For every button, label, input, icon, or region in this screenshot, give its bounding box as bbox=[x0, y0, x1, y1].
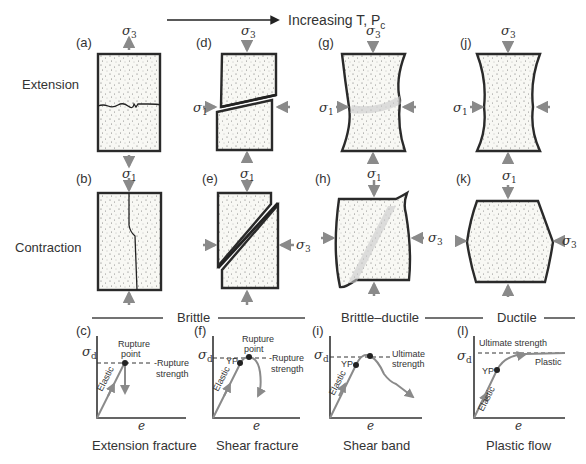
specimen-e: σ1 σ3 bbox=[203, 166, 311, 305]
panel-label-i: (i) bbox=[312, 323, 324, 338]
panel-label-c: (c) bbox=[76, 323, 91, 338]
caption-shear-band: Shear band bbox=[343, 438, 410, 453]
panel-label-l: (l) bbox=[457, 323, 469, 338]
elastic-label: Elastic bbox=[476, 384, 497, 413]
panel-label-k: (k) bbox=[456, 171, 471, 186]
x-axis-label: e bbox=[253, 419, 260, 433]
sigma3-label: σ3 bbox=[122, 23, 137, 40]
panel-label-e: (e) bbox=[202, 171, 218, 186]
sigma1-label: σ1 bbox=[502, 168, 517, 185]
panel-label-f: (f) bbox=[194, 323, 206, 338]
ultimate-strength-label: Ultimate strength bbox=[479, 338, 547, 348]
panel-label-b: (b) bbox=[76, 171, 92, 186]
sigma3-label: σ3 bbox=[562, 233, 577, 250]
sigma1-label: σ1 bbox=[319, 100, 334, 117]
sigma3-label: σ3 bbox=[296, 237, 311, 254]
svg-text:point: point bbox=[244, 344, 264, 354]
regime-bar: Brittle Brittle–ductile Ductile bbox=[92, 310, 575, 325]
elastic-label: Elastic bbox=[95, 364, 116, 393]
rupture-point-label: Rupture bbox=[242, 334, 274, 344]
row-label-extension: Extension bbox=[22, 77, 79, 92]
rupture-point bbox=[122, 360, 128, 366]
yield-point bbox=[494, 367, 500, 373]
ultimate-point bbox=[367, 353, 373, 359]
caption-extension-fracture: Extension fracture bbox=[92, 438, 197, 453]
sigma1-label: σ1 bbox=[122, 166, 137, 183]
graph-l: (l) σd Ultimate strength Plastic YP Elas… bbox=[457, 323, 565, 453]
row-label-contraction: Contraction bbox=[15, 240, 81, 255]
sigma1-label: σ1 bbox=[193, 100, 208, 117]
yp-label: YP bbox=[482, 366, 494, 376]
caption-shear-fracture: Shear fracture bbox=[216, 438, 298, 453]
x-axis-label: e bbox=[367, 419, 374, 433]
yp-label: YP bbox=[226, 356, 238, 366]
regime-brittle-ductile: Brittle–ductile bbox=[341, 310, 419, 325]
plastic-label: Plastic bbox=[535, 357, 562, 367]
regime-ductile: Ductile bbox=[497, 310, 537, 325]
graph-i: (i) σd YP Ultimate strength Elastic e Sh… bbox=[312, 323, 425, 453]
sigma3-label: σ3 bbox=[501, 23, 516, 40]
sigma-d-label: σd bbox=[314, 347, 329, 364]
panel-label-j: (j) bbox=[460, 35, 472, 50]
svg-text:strength: strength bbox=[271, 364, 304, 374]
elastic-label: Elastic bbox=[211, 364, 232, 393]
specimen-h: σ1 σ3 bbox=[321, 166, 443, 296]
panel-label-a: (a) bbox=[76, 35, 92, 50]
increasing-arrow: Increasing T, Pc bbox=[167, 12, 385, 31]
deformation-diagram: Increasing T, Pc Extension Contraction (… bbox=[0, 0, 586, 464]
sigma-d-label: σd bbox=[198, 347, 213, 364]
yp-label: YP bbox=[341, 359, 353, 369]
specimen-k: σ1 σ3 bbox=[456, 168, 577, 297]
caption-plastic-flow: Plastic flow bbox=[486, 438, 552, 453]
sigma-d-label: σd bbox=[82, 344, 97, 361]
sigma3-label: σ3 bbox=[428, 230, 443, 247]
x-axis-label: e bbox=[515, 419, 522, 433]
arrow-label-sub: c bbox=[380, 20, 385, 31]
sigma3-label: σ3 bbox=[241, 23, 256, 40]
specimen-b: σ1 bbox=[98, 166, 161, 305]
rupture-strength-label: -Rupture bbox=[154, 358, 189, 368]
specimen-a: σ3 bbox=[98, 23, 160, 166]
graph-f: (f) σd YP Rupture point -Rupture strengt… bbox=[194, 323, 304, 453]
sigma-d-label: σd bbox=[457, 348, 472, 365]
yield-point bbox=[353, 362, 359, 368]
sigma1-label: σ1 bbox=[367, 166, 382, 183]
svg-text:strength: strength bbox=[156, 369, 189, 379]
graph-c: (c) σd Rupture point -Rupture strength E… bbox=[76, 323, 197, 453]
x-axis-label: e bbox=[138, 419, 145, 433]
sigma1-label: σ1 bbox=[240, 166, 255, 183]
rupture-point-label: Rupture bbox=[118, 339, 150, 349]
panel-label-d: (d) bbox=[196, 35, 212, 50]
ultimate-strength-label: Ultimate bbox=[392, 349, 425, 359]
rupture-strength-label: -Rupture bbox=[269, 353, 304, 363]
sigma1-label: σ1 bbox=[453, 100, 468, 117]
svg-text:strength: strength bbox=[392, 359, 425, 369]
svg-text:point: point bbox=[121, 349, 141, 359]
panel-label-h: (h) bbox=[315, 171, 331, 186]
rupture-point bbox=[246, 354, 252, 360]
panel-label-g: (g) bbox=[318, 35, 334, 50]
